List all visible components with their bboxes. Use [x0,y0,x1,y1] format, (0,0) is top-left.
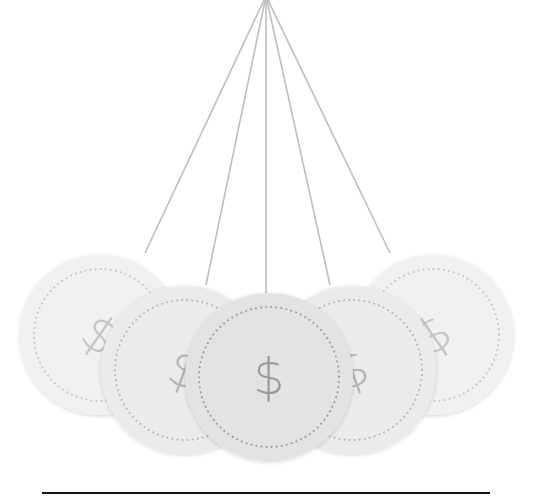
strings-group [145,0,390,293]
coin-3: $ [185,293,353,461]
string-coin-4 [266,0,330,285]
coin-cradle-illustration: $$$$$ [0,0,533,504]
string-coin-2 [206,0,266,285]
string-coin-1 [145,0,266,253]
dollar-sign-icon: $ [253,348,285,406]
string-coin-5 [266,0,390,253]
